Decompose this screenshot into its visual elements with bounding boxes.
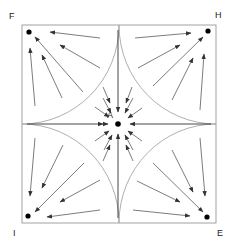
label-E: E — [217, 229, 223, 238]
point-H — [205, 28, 210, 33]
arrows-to-I — [30, 138, 100, 217]
arrows-to-F — [30, 32, 100, 106]
point-A — [115, 121, 121, 127]
label-F: F — [9, 12, 15, 21]
point-E — [204, 214, 209, 219]
label-A: A — [107, 111, 113, 120]
label-I: I — [13, 229, 16, 238]
label-H: H — [215, 11, 222, 20]
point-F — [26, 29, 31, 34]
arrows-to-E — [133, 138, 205, 216]
point-I — [25, 213, 30, 218]
arrows-to-H — [135, 33, 204, 110]
flow-diagram — [0, 0, 231, 248]
